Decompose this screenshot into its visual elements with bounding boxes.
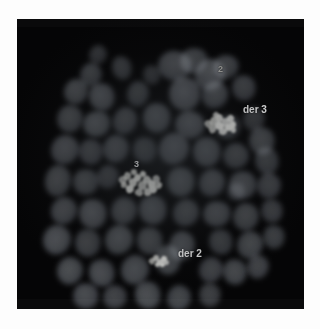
label-3: 3 — [134, 160, 139, 169]
label-2: 2 — [218, 65, 223, 74]
chromosome — [77, 197, 110, 231]
chromosome — [109, 53, 135, 82]
chromosome — [78, 138, 105, 166]
signal-3 — [118, 169, 162, 199]
scan-band-top — [17, 19, 304, 27]
fish-speckle — [160, 262, 165, 267]
chromosome — [141, 101, 173, 135]
chromosome — [245, 254, 270, 281]
chromosome — [229, 72, 259, 104]
chromosome — [43, 163, 73, 198]
chromosome — [100, 221, 137, 259]
chromosome — [56, 104, 85, 135]
fluorescence-micrograph: 2der 33der 2 — [17, 19, 304, 309]
fish-speckle — [231, 127, 236, 133]
chromosome — [256, 172, 283, 200]
chromosome — [54, 255, 85, 288]
chromosome — [261, 223, 287, 250]
chromosome — [195, 166, 228, 201]
chromosome — [168, 195, 203, 231]
label-der-3: der 3 — [243, 105, 267, 115]
chromosome — [101, 133, 131, 165]
chromosome — [165, 165, 197, 199]
chromosome — [219, 139, 253, 173]
chromosome — [73, 227, 103, 258]
chromosome — [221, 257, 250, 287]
chromosome — [191, 135, 224, 169]
chromosome — [205, 226, 236, 259]
figure-page: 2der 33der 2 — [0, 0, 320, 329]
scan-band-bottom — [17, 299, 304, 309]
signal-der-3 — [203, 111, 237, 137]
chromosome — [47, 193, 81, 228]
chromosome — [39, 222, 74, 259]
chromosome — [197, 282, 222, 309]
signal-der-2 — [149, 254, 169, 267]
chromosome — [231, 201, 261, 233]
chromosome — [258, 196, 286, 226]
chromosome — [202, 200, 233, 229]
chromosome — [164, 282, 194, 309]
label-der-2: der 2 — [178, 249, 202, 259]
chromosome — [108, 195, 139, 228]
chromosome — [101, 283, 129, 309]
chromosome — [109, 104, 140, 138]
